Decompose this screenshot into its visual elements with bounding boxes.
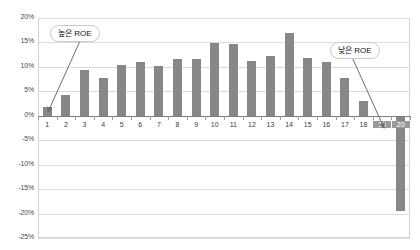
y-tick-label: -10% (0, 160, 34, 167)
bar (136, 62, 145, 116)
x-tick-label: 2 (57, 121, 75, 128)
x-tick-label: 15 (299, 121, 317, 128)
x-tick-label: 3 (76, 121, 94, 128)
x-tick (373, 116, 374, 120)
y-tick-label: -20% (0, 209, 34, 216)
x-tick-label: 17 (336, 121, 354, 128)
x-tick (243, 116, 244, 120)
bar (43, 107, 52, 115)
x-tick-label: 5 (113, 121, 131, 128)
x-tick (112, 116, 113, 120)
x-tick-label: 11 (224, 121, 242, 128)
bar (285, 33, 294, 116)
x-tick-label: 6 (131, 121, 149, 128)
bar (359, 101, 368, 116)
callout-high-roe-label: 높은 ROE (58, 29, 92, 38)
bar (303, 58, 312, 116)
bar (229, 44, 238, 116)
x-tick (224, 116, 225, 120)
x-tick (354, 116, 355, 120)
x-tick (150, 116, 151, 120)
bar (322, 62, 331, 116)
x-tick-label: 8 (169, 121, 187, 128)
roe-bar-chart: 20%15%10%5%0%-5%-10%-15%-20%-25% 1234567… (0, 0, 420, 250)
x-tick (168, 116, 169, 120)
bar (154, 66, 163, 115)
bar (99, 78, 108, 116)
x-tick-label: 9 (187, 121, 205, 128)
x-tick (298, 116, 299, 120)
y-tick-label: 10% (0, 62, 34, 69)
x-tick-label: 19 (373, 121, 391, 128)
bar (210, 43, 219, 115)
bar (192, 59, 201, 116)
x-tick-label: 13 (262, 121, 280, 128)
x-tick-label: 20 (392, 121, 410, 128)
bar (80, 70, 89, 115)
x-tick (205, 116, 206, 120)
bar (266, 56, 275, 116)
x-tick-label: 12 (243, 121, 261, 128)
x-tick (261, 116, 262, 120)
x-tick (317, 116, 318, 120)
x-tick-label: 14 (280, 121, 298, 128)
y-tick-label: -5% (0, 135, 34, 142)
y-tick-label: 15% (0, 37, 34, 44)
x-tick (187, 116, 188, 120)
x-axis: 1234567891011121314151617181920 (38, 116, 410, 136)
x-tick (94, 116, 95, 120)
y-tick-label: 20% (0, 13, 34, 20)
x-tick-label: 4 (94, 121, 112, 128)
y-tick-label: 5% (0, 86, 34, 93)
x-tick-label: 1 (38, 121, 56, 128)
y-tick-label: -15% (0, 184, 34, 191)
bar (340, 78, 349, 116)
bar (117, 65, 126, 115)
x-tick (38, 116, 39, 120)
callout-low-roe-label: 낮은 ROE (338, 46, 372, 55)
callout-low-roe: 낮은 ROE (330, 42, 380, 59)
y-tick-label: -25% (0, 233, 34, 240)
x-tick (410, 116, 411, 120)
x-tick (131, 116, 132, 120)
x-tick (280, 116, 281, 120)
bar (61, 95, 70, 116)
x-tick-label: 18 (355, 121, 373, 128)
callout-high-roe: 높은 ROE (50, 25, 100, 42)
x-tick-label: 7 (150, 121, 168, 128)
x-tick-label: 10 (206, 121, 224, 128)
bar (173, 59, 182, 116)
x-tick (391, 116, 392, 120)
bar (247, 61, 256, 116)
gridline (38, 238, 410, 239)
x-tick (75, 116, 76, 120)
x-tick-label: 16 (317, 121, 335, 128)
x-tick (57, 116, 58, 120)
y-tick-label: 0% (0, 111, 34, 118)
x-tick (336, 116, 337, 120)
